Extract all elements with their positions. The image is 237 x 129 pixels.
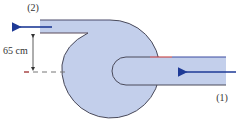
inlet-pipe-body (112, 57, 226, 85)
inlet-pipe (112, 57, 226, 85)
inlet-label: (1) (216, 92, 228, 104)
outlet-label: (2) (27, 2, 39, 14)
dimension-label: 65 cm (3, 45, 28, 56)
pump-diagram: (2) 65 cm (1) (0, 0, 237, 129)
